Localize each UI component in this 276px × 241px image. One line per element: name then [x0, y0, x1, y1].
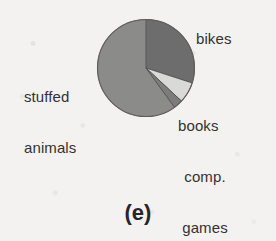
pie-label-stuffed-line1: stuffed	[24, 88, 76, 105]
pie-chart-figure: bikes stuffed animals books comp. games …	[0, 0, 276, 241]
pie-label-books: books	[178, 117, 219, 134]
pie-chart-graphic	[96, 16, 196, 120]
figure-caption: (e)	[0, 200, 276, 226]
pie-label-bikes: bikes	[196, 30, 232, 47]
pie-label-stuffed-animals: stuffed animals	[24, 54, 76, 190]
pie-slices	[98, 20, 195, 117]
pie-label-comp-line: comp.	[163, 168, 247, 185]
pie-label-stuffed-line2: animals	[24, 139, 76, 156]
